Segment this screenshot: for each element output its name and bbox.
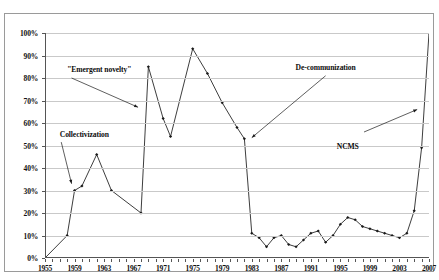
x-axis-line: [45, 257, 429, 258]
x-tick-mark: [141, 259, 142, 262]
x-tick-mark: [52, 259, 53, 262]
y-tick-label: 90%: [24, 51, 38, 60]
y-tick-mark: [42, 236, 45, 237]
y-tick-mark: [42, 101, 45, 102]
x-tick-label: 2007: [422, 264, 436, 273]
x-tick-mark: [148, 259, 149, 262]
x-tick-mark: [274, 259, 275, 262]
x-tick-label: 1999: [363, 264, 377, 273]
gridline-70%: [45, 101, 429, 102]
y-tick-mark: [42, 123, 45, 124]
x-tick-mark: [75, 259, 76, 262]
gridline-50%: [45, 146, 429, 147]
annotation-de-communization: De-communization: [296, 63, 356, 72]
y-tick-mark: [42, 191, 45, 192]
x-tick-mark: [259, 259, 260, 262]
x-tick-mark: [385, 259, 386, 262]
x-tick-mark: [185, 259, 186, 262]
x-tick-mark: [377, 259, 378, 262]
y-tick-mark: [42, 33, 45, 34]
gridline-60%: [45, 123, 429, 124]
x-tick-mark: [296, 259, 297, 262]
x-tick-mark: [60, 259, 61, 262]
data-point-marker: [413, 209, 416, 212]
x-tick-mark: [200, 259, 201, 262]
gridline-40%: [45, 168, 429, 169]
x-tick-mark: [414, 259, 415, 262]
x-tick-mark: [399, 259, 400, 262]
y-tick-mark: [42, 56, 45, 57]
x-tick-label: 1979: [215, 264, 229, 273]
x-tick-label: 1971: [156, 264, 170, 273]
x-tick-mark: [178, 259, 179, 262]
y-tick-mark: [42, 146, 45, 147]
gridline-100%: [45, 33, 429, 34]
gridline-20%: [45, 213, 429, 214]
x-tick-mark: [281, 259, 282, 262]
chart-figure: 0%10%20%30%40%50%60%70%80%90%100% 195519…: [0, 0, 439, 280]
x-tick-mark: [318, 259, 319, 262]
data-point-marker: [420, 146, 423, 149]
x-tick-label: 1983: [245, 264, 259, 273]
x-tick-mark: [119, 259, 120, 262]
y-tick-label: 60%: [24, 119, 38, 128]
x-tick-mark: [45, 259, 46, 262]
x-tick-mark: [392, 259, 393, 262]
x-tick-mark: [156, 259, 157, 262]
x-tick-mark: [67, 259, 68, 262]
x-tick-mark: [215, 259, 216, 262]
x-tick-mark: [311, 259, 312, 262]
y-tick-mark: [42, 213, 45, 214]
x-tick-mark: [111, 259, 112, 262]
y-tick-label: 100%: [20, 29, 38, 38]
x-tick-mark: [340, 259, 341, 262]
x-tick-mark: [244, 259, 245, 262]
x-tick-label: 2003: [392, 264, 406, 273]
x-tick-mark: [207, 259, 208, 262]
x-tick-label: 1955: [38, 264, 52, 273]
x-tick-mark: [422, 259, 423, 262]
x-tick-label: 1987: [274, 264, 288, 273]
x-tick-mark: [82, 259, 83, 262]
data-point-marker: [162, 117, 165, 120]
x-tick-mark: [104, 259, 105, 262]
x-tick-mark: [230, 259, 231, 262]
x-tick-mark: [163, 259, 164, 262]
x-tick-mark: [363, 259, 364, 262]
x-tick-mark: [134, 259, 135, 262]
x-tick-mark: [97, 259, 98, 262]
y-tick-label: 20%: [24, 209, 38, 218]
annotation-emergent-novelty: "Emergent novelty": [67, 65, 131, 74]
y-tick-label: 70%: [24, 96, 38, 105]
y-tick-label: 30%: [24, 186, 38, 195]
y-tick-label: 80%: [24, 74, 38, 83]
data-point-marker: [383, 232, 386, 235]
x-tick-mark: [303, 259, 304, 262]
data-point-marker: [169, 135, 172, 138]
x-tick-label: 1963: [97, 264, 111, 273]
x-tick-mark: [267, 259, 268, 262]
x-tick-mark: [222, 259, 223, 262]
x-tick-label: 1991: [304, 264, 318, 273]
y-tick-label: 40%: [24, 164, 38, 173]
data-point-marker: [95, 153, 98, 156]
x-tick-mark: [429, 259, 430, 262]
y-axis-line: [45, 33, 46, 258]
x-tick-mark: [252, 259, 253, 262]
x-tick-label: 1975: [186, 264, 200, 273]
y-tick-label: 50%: [24, 141, 38, 150]
annotation-collectivization: Collectivization: [60, 130, 109, 139]
data-point-marker: [147, 65, 150, 68]
x-tick-label: 1995: [333, 264, 347, 273]
y-tick-label: 10%: [24, 231, 38, 240]
gridline-90%: [45, 56, 429, 57]
x-tick-mark: [237, 259, 238, 262]
x-tick-label: 1967: [127, 264, 141, 273]
chart-frame: 0%10%20%30%40%50%60%70%80%90%100% 195519…: [4, 13, 434, 272]
data-point-marker: [368, 227, 371, 230]
gridline-80%: [45, 78, 429, 79]
x-tick-mark: [126, 259, 127, 262]
x-tick-mark: [333, 259, 334, 262]
data-point-marker: [376, 229, 379, 232]
y-tick-label: 0%: [27, 254, 38, 263]
